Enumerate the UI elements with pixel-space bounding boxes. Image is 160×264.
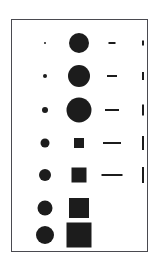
column-3-horizontal-dashes-row-2-horizontal-bar-glyph [107,75,117,77]
plot-frame [11,19,148,252]
column-1-small-circles-row-3-circle-glyph [42,107,48,113]
column-3-horizontal-dashes-row-4-horizontal-bar-glyph [103,142,121,144]
column-4-vertical-bars-row-4-vertical-bar-glyph [142,136,144,150]
column-1-small-circles-row-1-circle-glyph [44,42,46,44]
column-2-circles-then-squares-row-1-circle-glyph [69,33,89,53]
column-1-small-circles-row-6-circle-glyph [38,201,53,216]
column-2-circles-then-squares-row-5-square-glyph [72,168,87,183]
column-3-horizontal-dashes-row-5-horizontal-bar-glyph [102,174,123,176]
column-2-circles-then-squares-row-4-square-glyph [74,138,84,148]
column-4-vertical-bars-row-3-vertical-bar-glyph [142,105,144,116]
column-2-circles-then-squares-row-6-square-glyph [69,198,89,218]
column-3-horizontal-dashes-row-1-horizontal-bar-glyph [109,42,116,44]
column-1-small-circles-row-2-circle-glyph [43,74,47,78]
column-4-vertical-bars-row-5-vertical-bar-glyph [142,167,144,183]
column-4-vertical-bars-row-1-vertical-bar-glyph [142,41,144,46]
column-2-circles-then-squares-row-2-circle-glyph [68,65,90,87]
column-1-small-circles-row-5-circle-glyph [39,169,51,181]
column-1-small-circles-row-7-circle-glyph [36,226,54,244]
column-3-horizontal-dashes-row-3-horizontal-bar-glyph [105,109,119,111]
column-1-small-circles-row-4-circle-glyph [41,139,50,148]
column-2-circles-then-squares-row-3-circle-glyph [67,98,92,123]
column-2-circles-then-squares-row-7-square-glyph [67,223,92,248]
figure-root [0,0,160,264]
column-4-vertical-bars-row-2-vertical-bar-glyph [142,72,144,80]
symbol-layer [12,20,147,251]
